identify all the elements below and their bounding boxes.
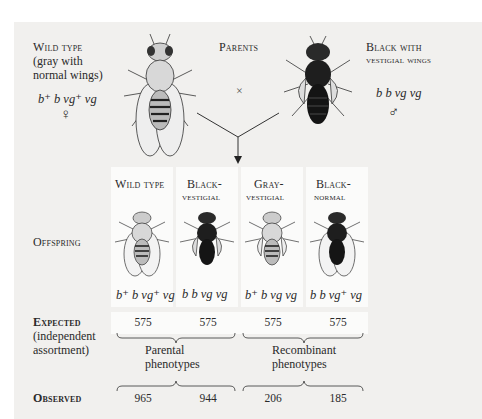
observed-value-4: 185 [308, 392, 368, 404]
group-braces [0, 0, 482, 419]
observed-value-1: 965 [113, 392, 173, 404]
observed-value-2: 944 [178, 392, 238, 404]
recombinant-label-2: phenotypes [272, 357, 327, 372]
observed-value-3: 206 [243, 392, 303, 404]
recombinant-label-1: Recombinant [272, 343, 336, 358]
parental-label-1: Parental [145, 343, 184, 358]
parental-label-2: phenotypes [145, 357, 200, 372]
observed-label: Observed [33, 391, 81, 406]
